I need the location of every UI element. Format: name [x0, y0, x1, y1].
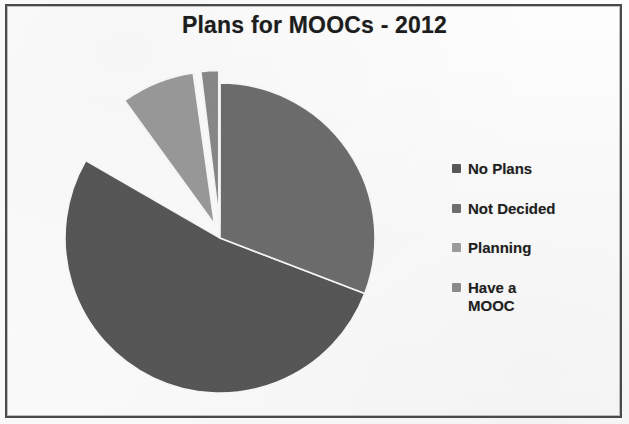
square-swatch-icon	[452, 204, 461, 213]
pie-chart-area	[52, 58, 397, 403]
square-swatch-icon	[452, 164, 461, 173]
chart-screenshot: Plans for MOOCs - 2012 No Plans	[0, 0, 629, 424]
legend-label: No Plans	[468, 160, 532, 178]
legend-item-planning[interactable]: Planning	[452, 239, 620, 257]
square-swatch-icon	[452, 283, 461, 292]
square-swatch-icon	[452, 243, 461, 252]
pie-chart-svg	[52, 58, 397, 403]
legend-item-no-plans[interactable]: No Plans	[452, 160, 620, 178]
legend-item-not-decided[interactable]: Not Decided	[452, 200, 620, 218]
chart-title: Plans for MOOCs - 2012	[0, 12, 629, 39]
legend-item-have-a-mooc[interactable]: Have a MOOC	[452, 279, 620, 314]
legend-label: Planning	[468, 239, 531, 257]
chart-legend: No Plans Not Decided Planning Have a MOO…	[452, 160, 620, 336]
legend-label: Have a MOOC	[468, 279, 516, 314]
legend-label: Not Decided	[468, 200, 556, 218]
